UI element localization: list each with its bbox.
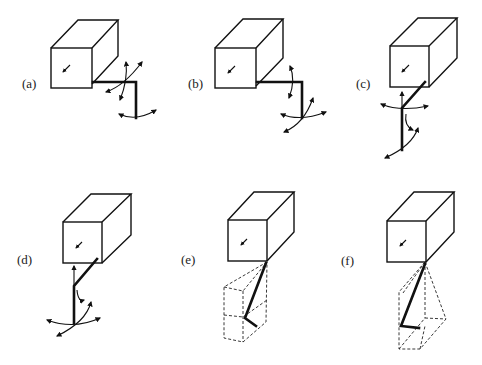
panel-f: (f)	[341, 192, 454, 349]
cube-icon	[63, 194, 131, 263]
panel-label-d: (d)	[17, 252, 32, 267]
arm	[93, 82, 136, 118]
panel-label-c: (c)	[356, 76, 370, 91]
rotation-arrows	[106, 62, 156, 117]
panel-label-a: (a)	[22, 76, 36, 91]
workspace-pyramid	[399, 262, 446, 349]
panel-label-b: (b)	[188, 76, 203, 91]
rotation-arrows	[381, 92, 428, 158]
panel-b: (b)	[188, 19, 326, 132]
rotation-arrows	[281, 66, 326, 132]
panel-c: (c)	[356, 18, 457, 158]
panel-e: (e)	[181, 192, 294, 342]
arm	[257, 82, 302, 118]
cube-icon	[387, 192, 454, 262]
cube-icon	[390, 18, 457, 87]
arm	[401, 264, 425, 328]
cube-icon	[228, 192, 294, 261]
panel-label-e: (e)	[181, 252, 195, 267]
figure-canvas: (a) (b)	[0, 0, 482, 365]
cube-icon	[51, 20, 118, 88]
panel-a: (a)	[22, 20, 156, 118]
cube-icon	[215, 19, 283, 88]
panel-d: (d)	[17, 194, 131, 336]
panel-label-f: (f)	[341, 253, 354, 268]
